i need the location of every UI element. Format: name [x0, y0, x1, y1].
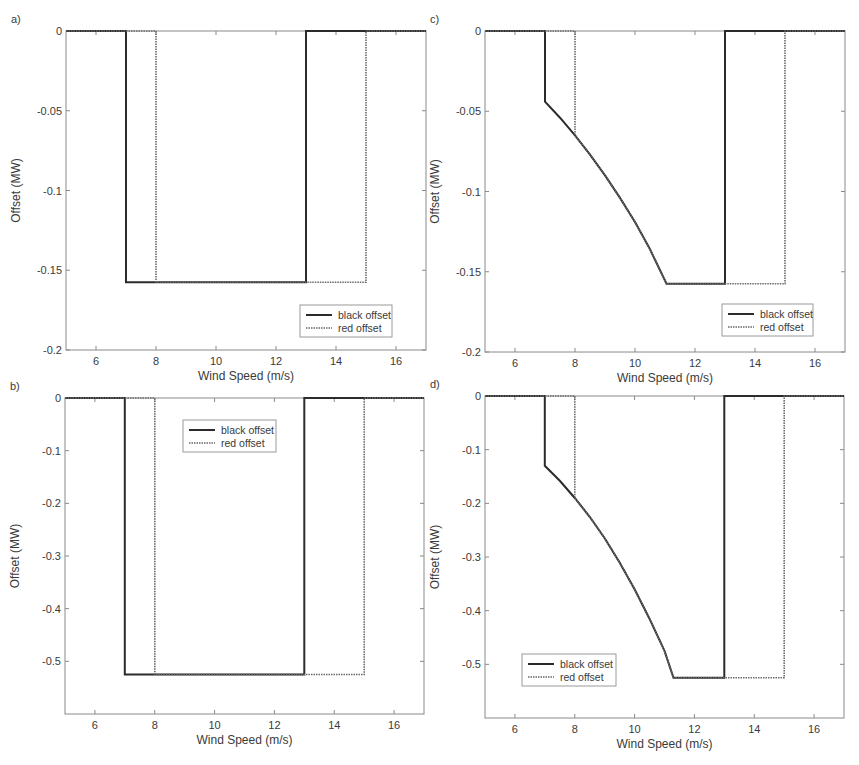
- figure-canvas: a)68101214160-0.05-0.1-0.15-0.2Wind Spee…: [0, 0, 859, 765]
- y-tick-label: -0.15: [456, 266, 481, 278]
- y-tick-label: -0.05: [456, 105, 481, 117]
- y-tick-label: -0.1: [43, 185, 62, 197]
- panel-label: d): [430, 378, 440, 390]
- x-tick-label: 14: [748, 723, 760, 735]
- x-axis-label: Wind Speed (m/s): [198, 369, 294, 383]
- y-tick-label: 0: [55, 392, 61, 404]
- series-black-offset: [485, 31, 845, 284]
- y-tick-label: -0.5: [42, 655, 61, 667]
- figure: a)68101214160-0.05-0.1-0.15-0.2Wind Spee…: [0, 0, 859, 765]
- legend-entry-label: red offset: [338, 322, 382, 334]
- x-tick-label: 14: [749, 357, 761, 369]
- y-tick-label: -0.2: [462, 497, 481, 509]
- y-tick-label: -0.05: [37, 105, 62, 117]
- legend-entry-label: black offset: [221, 424, 274, 436]
- y-tick-label: -0.1: [462, 444, 481, 456]
- x-tick-label: 6: [92, 719, 98, 731]
- x-tick-label: 10: [208, 719, 220, 731]
- x-tick-label: 8: [152, 719, 158, 731]
- chart-panel-b: b)68101214160-0.1-0.2-0.3-0.4-0.5Wind Sp…: [8, 380, 424, 747]
- y-axis-label: Offset (MW): [8, 524, 22, 588]
- y-axis-label: Offset (MW): [9, 158, 23, 222]
- y-axis-label: Offset (MW): [428, 525, 442, 589]
- legend: black offsetred offset: [300, 305, 392, 337]
- y-tick-label: -0.2: [42, 497, 61, 509]
- legend-entry-label: red offset: [760, 321, 804, 333]
- legend-entry-label: black offset: [560, 658, 613, 670]
- y-tick-label: 0: [56, 25, 62, 37]
- x-tick-label: 10: [629, 357, 641, 369]
- legend-entry-label: red offset: [560, 671, 604, 683]
- y-tick-label: -0.4: [42, 603, 61, 615]
- plot-area: [66, 31, 426, 350]
- y-tick-label: -0.4: [462, 605, 481, 617]
- legend: black offsetred offset: [722, 304, 813, 336]
- x-tick-label: 8: [153, 355, 159, 367]
- series-black-offset: [66, 31, 426, 282]
- chart-panel-a: a)68101214160-0.05-0.1-0.15-0.2Wind Spee…: [9, 13, 426, 383]
- x-tick-label: 8: [572, 357, 578, 369]
- x-tick-label: 16: [808, 723, 820, 735]
- y-tick-label: 0: [475, 25, 481, 37]
- legend: black offsetred offset: [183, 420, 276, 452]
- x-tick-label: 14: [328, 719, 340, 731]
- x-tick-label: 16: [388, 719, 400, 731]
- x-tick-label: 10: [210, 355, 222, 367]
- legend-entry-label: black offset: [760, 308, 813, 320]
- y-axis-label: Offset (MW): [428, 159, 442, 223]
- series-red-offset: [485, 396, 844, 678]
- x-tick-label: 12: [268, 719, 280, 731]
- chart-panel-d: d)68101214160-0.1-0.2-0.3-0.4-0.5Wind Sp…: [428, 378, 844, 751]
- x-tick-label: 6: [512, 723, 518, 735]
- series-red-offset: [66, 31, 426, 282]
- y-tick-label: -0.1: [42, 445, 61, 457]
- chart-panel-c: c)68101214160-0.05-0.1-0.15-0.2Wind Spee…: [428, 13, 845, 385]
- panel-label: c): [430, 13, 439, 25]
- x-tick-label: 16: [809, 357, 821, 369]
- x-tick-label: 10: [628, 723, 640, 735]
- x-tick-label: 16: [390, 355, 402, 367]
- y-tick-label: -0.1: [462, 186, 481, 198]
- x-tick-label: 6: [93, 355, 99, 367]
- y-tick-label: -0.3: [42, 550, 61, 562]
- y-tick-label: -0.15: [37, 264, 62, 276]
- y-tick-label: -0.3: [462, 551, 481, 563]
- series-red-offset: [485, 31, 845, 284]
- x-tick-label: 6: [512, 357, 518, 369]
- legend-entry-label: black offset: [338, 309, 391, 321]
- legend-entry-label: red offset: [221, 437, 265, 449]
- y-tick-label: 0: [475, 390, 481, 402]
- x-tick-label: 12: [270, 355, 282, 367]
- y-tick-label: -0.2: [462, 346, 481, 358]
- x-tick-label: 14: [330, 355, 342, 367]
- panel-label: b): [10, 380, 20, 392]
- x-axis-label: Wind Speed (m/s): [616, 737, 712, 751]
- y-tick-label: -0.2: [43, 344, 62, 356]
- x-axis-label: Wind Speed (m/s): [617, 371, 713, 385]
- x-tick-label: 12: [689, 357, 701, 369]
- x-tick-label: 8: [572, 723, 578, 735]
- y-tick-label: -0.5: [462, 658, 481, 670]
- legend: black offsetred offset: [522, 654, 616, 686]
- panel-label: a): [11, 13, 21, 25]
- x-tick-label: 12: [688, 723, 700, 735]
- series-black-offset: [485, 396, 844, 678]
- x-axis-label: Wind Speed (m/s): [196, 733, 292, 747]
